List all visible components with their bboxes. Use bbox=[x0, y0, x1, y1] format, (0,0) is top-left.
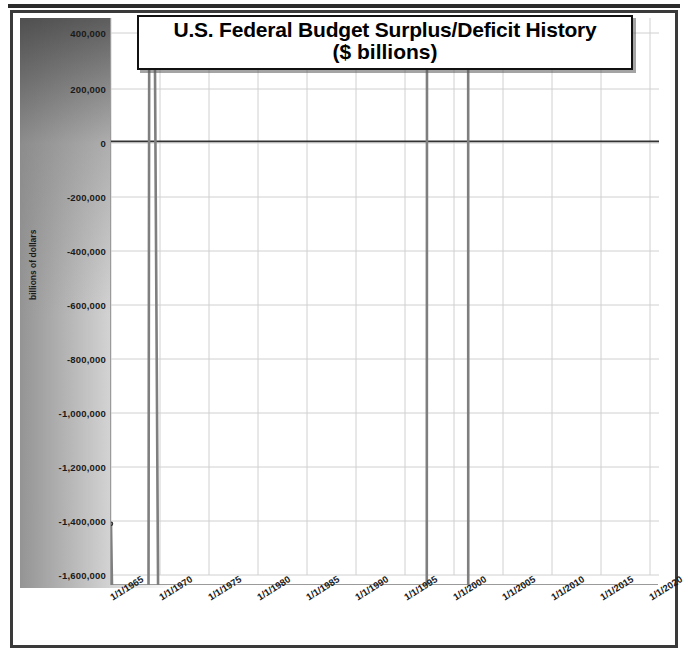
chart-title: U.S. Federal Budget Surplus/Deficit Hist… bbox=[143, 19, 627, 41]
y-tick-label: -800,000 bbox=[10, 354, 106, 365]
y-tick-label: -600,000 bbox=[10, 300, 106, 311]
chart-title-box: U.S. Federal Budget Surplus/Deficit Hist… bbox=[137, 15, 633, 70]
y-tick-label: -1,600,000 bbox=[10, 570, 106, 581]
y-tick-label: 200,000 bbox=[10, 84, 106, 95]
y-tick-label: -1,400,000 bbox=[10, 516, 106, 527]
y-tick-label: 0 bbox=[10, 138, 106, 149]
y-axis-title: billions of dollars bbox=[28, 230, 38, 300]
y-tick-label: -1,200,000 bbox=[10, 462, 106, 473]
chart-figure: 400,000200,0000-200,000-400,000-600,000-… bbox=[0, 0, 688, 662]
y-axis-ticks: 400,000200,0000-200,000-400,000-600,000-… bbox=[0, 18, 106, 585]
top-rule bbox=[8, 4, 680, 8]
y-tick-label: 400,000 bbox=[10, 28, 106, 39]
y-tick-label: -400,000 bbox=[10, 246, 106, 257]
chart-subtitle: ($ billions) bbox=[143, 41, 627, 63]
y-tick-label: -200,000 bbox=[10, 192, 106, 203]
data-series-line bbox=[111, 18, 552, 585]
plot-area bbox=[110, 18, 658, 585]
y-tick-label: -1,000,000 bbox=[10, 408, 106, 419]
series-line-chart bbox=[111, 18, 659, 585]
